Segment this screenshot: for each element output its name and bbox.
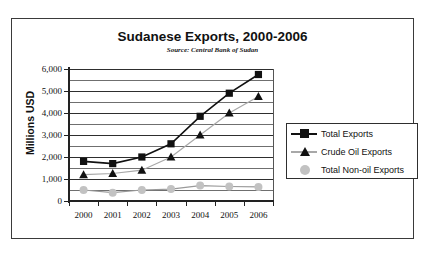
marker-circle [109, 189, 117, 197]
marker-circle [167, 185, 175, 193]
x-axis-label: 2000 [75, 210, 93, 220]
marker-triangle [196, 131, 205, 139]
y-axis-label: 3,000 [42, 130, 62, 140]
series-line-0 [84, 75, 259, 164]
chart-subtitle: Source: Central Bank of Sudan [12, 46, 413, 54]
x-axis-label: 2006 [249, 210, 267, 220]
legend-key [287, 143, 321, 161]
legend-label: Crude Oil Exports [321, 147, 392, 157]
marker-triangle [167, 153, 176, 161]
marker-triangle [137, 166, 146, 174]
marker-square [109, 160, 116, 167]
y-axis-label: 0 [58, 196, 63, 206]
legend-label: Total Exports [321, 129, 373, 139]
marker-square [138, 153, 145, 160]
legend-item[interactable]: Total Exports [287, 125, 417, 143]
plot-right-border [273, 69, 274, 202]
marker-square [167, 140, 174, 147]
legend-item[interactable]: Total Non-oil Exports [287, 161, 417, 179]
legend-triangle-icon [300, 147, 310, 156]
legend-square-icon [300, 129, 309, 138]
y-axis-label: 5,000 [42, 86, 62, 96]
marker-circle [196, 182, 204, 190]
marker-circle [254, 183, 262, 191]
chart-frame: Sudanese Exports, 2000-2006 Source: Cent… [11, 18, 414, 239]
x-axis-label: 2002 [133, 210, 151, 220]
legend-key [287, 125, 321, 143]
x-axis-label: 2005 [220, 210, 238, 220]
chart-legend: Total ExportsCrude Oil ExportsTotal Non-… [286, 123, 418, 179]
marker-circle [138, 186, 146, 194]
marker-circle [80, 186, 88, 194]
marker-triangle [254, 92, 263, 100]
legend-circle-icon [300, 165, 310, 175]
marker-circle [225, 182, 233, 190]
y-axis-label: 6,000 [42, 64, 62, 74]
legend-key [287, 161, 321, 179]
x-axis-label: 2001 [104, 210, 122, 220]
marker-triangle [225, 109, 234, 117]
series-layer [69, 69, 273, 201]
x-axis-label: 2004 [191, 210, 209, 220]
y-axis-label: 2,000 [42, 152, 62, 162]
y-axis-title: Millions USD [24, 78, 36, 168]
y-axis-label: 4,000 [42, 108, 62, 118]
chart-title: Sudanese Exports, 2000-2006 [12, 29, 413, 44]
legend-label: Total Non-oil Exports [321, 165, 404, 175]
marker-square [197, 113, 204, 120]
marker-square [226, 90, 233, 97]
marker-square [255, 71, 262, 78]
y-axis-label: 1,000 [42, 174, 62, 184]
legend-item[interactable]: Crude Oil Exports [287, 143, 417, 161]
marker-square [80, 158, 87, 165]
plot-area: 01,0002,0003,0004,0005,0006,000 20002001… [69, 69, 273, 201]
x-axis-label: 2003 [162, 210, 180, 220]
